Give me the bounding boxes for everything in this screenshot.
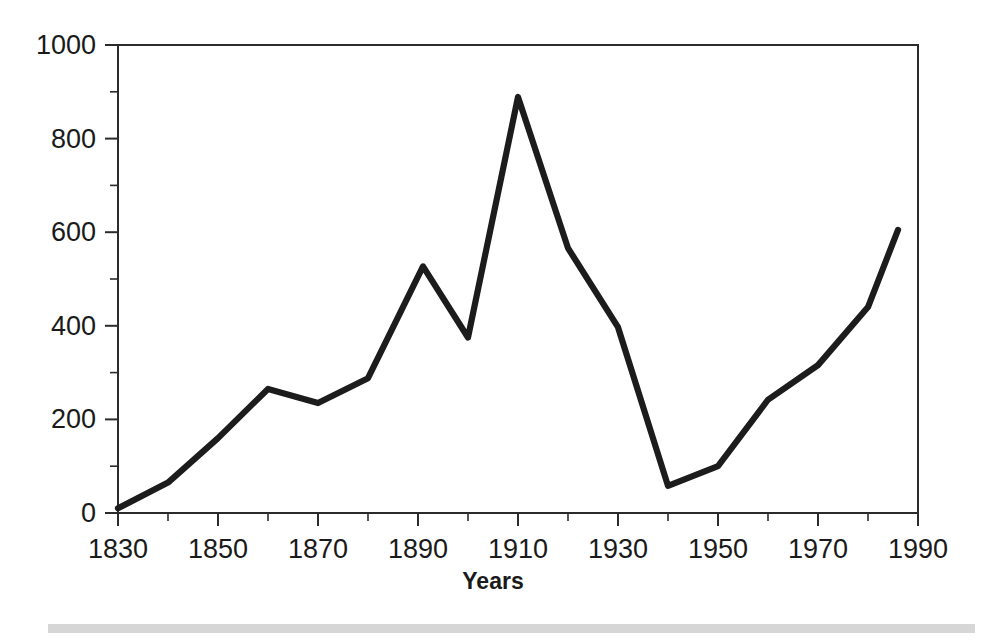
x-tick-label-1990: 1990 xyxy=(888,534,948,564)
x-tick-label-1870: 1870 xyxy=(288,534,348,564)
x-tick-label-1950: 1950 xyxy=(688,534,748,564)
x-axis-title: Years xyxy=(462,568,523,594)
y-tick-label-0: 0 xyxy=(81,498,96,528)
y-tick-label-200: 200 xyxy=(51,404,96,434)
y-tick-label-400: 400 xyxy=(51,311,96,341)
x-tick-label-1830: 1830 xyxy=(88,534,148,564)
y-tick-label-600: 600 xyxy=(51,217,96,247)
x-tick-label-1850: 1850 xyxy=(188,534,248,564)
y-tick-label-800: 800 xyxy=(51,124,96,154)
y-tick-label-1000: 1000 xyxy=(36,30,96,60)
figure-container: 02004006008001000 1830185018701890191019… xyxy=(0,0,989,643)
x-tick-label-1890: 1890 xyxy=(388,534,448,564)
x-axis-tick-labels: 183018501870189019101930195019701990 xyxy=(88,534,948,564)
x-tick-label-1930: 1930 xyxy=(588,534,648,564)
line-chart: 02004006008001000 1830185018701890191019… xyxy=(0,0,989,643)
data-line-series-1 xyxy=(118,97,898,508)
x-tick-label-1970: 1970 xyxy=(788,534,848,564)
y-axis-tick-labels: 02004006008001000 xyxy=(36,30,96,528)
plot-frame xyxy=(118,45,918,513)
x-tick-label-1910: 1910 xyxy=(488,534,548,564)
footer-gray-bar xyxy=(48,624,975,633)
